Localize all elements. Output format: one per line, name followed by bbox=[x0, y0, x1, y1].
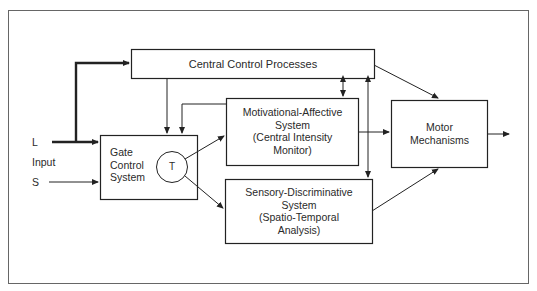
input-L-label: L bbox=[32, 136, 38, 149]
motor-line2: Mechanisms bbox=[391, 134, 488, 147]
edge-central-to-motor bbox=[374, 65, 438, 98]
edge-sensory-to-motor bbox=[372, 169, 438, 211]
sensory-line4: Analysis) bbox=[225, 224, 373, 237]
gate-line2: Control bbox=[110, 159, 145, 172]
edge-L-to-central bbox=[76, 63, 129, 142]
sensory-line1: Sensory-Discriminative bbox=[225, 186, 373, 199]
motor-label: Motor Mechanisms bbox=[391, 121, 488, 146]
motivational-line1: Motivational-Affective bbox=[226, 106, 359, 119]
motivational-label: Motivational-Affective System (Central I… bbox=[226, 106, 359, 156]
input-S-label: S bbox=[32, 176, 39, 189]
sensory-line2: System bbox=[225, 199, 373, 212]
sensory-line3: (Spatio-Temporal bbox=[225, 211, 373, 224]
sensory-label: Sensory-Discriminative System (Spatio-Te… bbox=[225, 186, 373, 236]
gate-line1: Gate bbox=[110, 146, 145, 159]
central-control-label: Central Control Processes bbox=[131, 58, 375, 71]
gate-line3: System bbox=[110, 171, 145, 184]
motivational-line2: System bbox=[226, 119, 359, 132]
motivational-line4: Monitor) bbox=[226, 144, 359, 157]
transmission-label: T bbox=[157, 161, 187, 174]
input-label: Input bbox=[32, 156, 55, 169]
motor-line1: Motor bbox=[391, 121, 488, 134]
motivational-line3: (Central Intensity bbox=[226, 131, 359, 144]
edge-motivational-to-gate bbox=[182, 104, 226, 133]
gate-control-label: Gate Control System bbox=[110, 146, 145, 184]
